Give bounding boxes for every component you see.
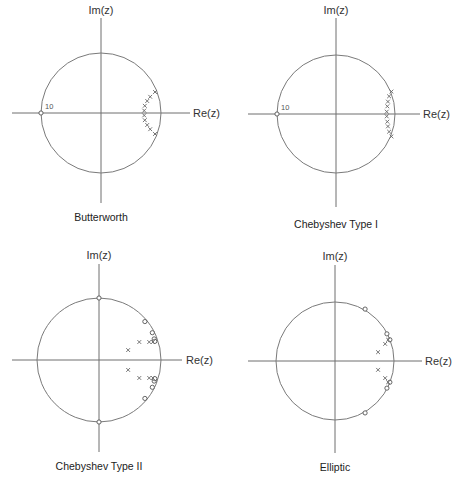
pole-marker-icon [385, 104, 389, 108]
imag-axis-label: Im(z) [88, 4, 113, 16]
plot-title: Butterworth [74, 211, 128, 223]
pole-marker-icon [376, 350, 380, 354]
zero-marker-icon [363, 411, 367, 415]
pole-marker-icon [126, 368, 130, 372]
imag-axis-label: Im(z) [86, 249, 111, 261]
pole-marker-icon [376, 368, 380, 372]
pole-marker-icon [147, 376, 151, 380]
zero-marker-icon [385, 332, 389, 336]
pole-marker-icon [137, 376, 141, 380]
pole-marker-icon [145, 99, 149, 103]
zero-marker-icon [385, 386, 389, 390]
pole-marker-icon [147, 340, 151, 344]
zero-marker-icon [97, 296, 101, 300]
zero-marker-icon [143, 319, 147, 323]
zero-multiplicity-label: 10 [281, 103, 289, 112]
pole-marker-icon [386, 100, 390, 104]
imag-axis-label: Im(z) [323, 4, 348, 16]
zero-marker-icon [363, 307, 367, 311]
zero-marker-icon [143, 396, 147, 400]
pole-marker-icon [153, 132, 157, 136]
real-axis-label: Re(z) [193, 107, 220, 119]
zero-marker-icon [150, 385, 154, 389]
pole-marker-icon [145, 123, 149, 127]
elliptic-plot: Re(z)Im(z)Elliptic [248, 250, 452, 473]
plot-title: Chebyshev Type II [56, 460, 143, 472]
imag-axis-label: Im(z) [322, 250, 347, 262]
real-axis-label: Re(z) [423, 108, 450, 120]
pole-marker-icon [148, 127, 152, 131]
pole-marker-icon [142, 114, 146, 118]
zero-marker-icon [275, 112, 279, 116]
pole-marker-icon [386, 124, 390, 128]
pole-marker-icon [153, 90, 157, 94]
pole-marker-icon [143, 118, 147, 122]
pole-marker-icon [142, 109, 146, 113]
pole-marker-icon [387, 130, 391, 134]
pole-marker-icon [385, 114, 389, 118]
zero-marker-icon [39, 111, 43, 115]
plot-title: Chebyshev Type I [294, 218, 378, 230]
zero-marker-icon [150, 331, 154, 335]
pole-marker-icon [383, 342, 387, 346]
chebyshev-type-1-plot: Re(z)Im(z)Chebyshev Type I10 [248, 4, 450, 230]
chebyshev-type-2-plot: Re(z)Im(z)Chebyshev Type II [12, 249, 213, 472]
pole-marker-icon [143, 104, 147, 108]
pole-marker-icon [137, 340, 141, 344]
zero-marker-icon [97, 420, 101, 424]
pole-marker-icon [385, 120, 389, 124]
butterworth-plot: Re(z)Im(z)Butterworth10 [12, 4, 220, 223]
pole-marker-icon [383, 376, 387, 380]
zero-multiplicity-label: 10 [45, 102, 53, 111]
pole-marker-icon [148, 95, 152, 99]
pole-marker-icon [126, 348, 130, 352]
real-axis-label: Re(z) [186, 354, 213, 366]
real-axis-label: Re(z) [425, 355, 452, 367]
pole-zero-plots: Re(z)Im(z)Butterworth10 Re(z)Im(z)Chebys… [0, 0, 459, 483]
pole-marker-icon [385, 110, 389, 114]
plot-title: Elliptic [320, 461, 350, 473]
pole-marker-icon [387, 94, 391, 98]
